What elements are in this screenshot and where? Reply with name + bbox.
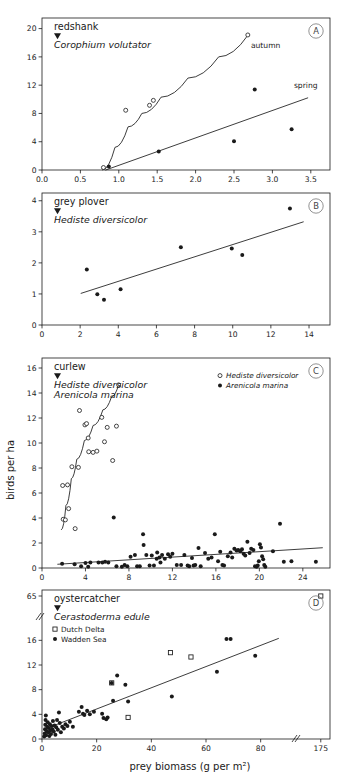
data-point-filled-circle: [203, 551, 207, 555]
legend-label-1: Wadden Sea: [61, 635, 107, 644]
ytick-label-c-5: 10: [27, 439, 37, 448]
panel-prey-name-c: Hediste diversicolor: [54, 379, 148, 390]
data-point-filled-circle: [210, 555, 214, 559]
data-point-filled-circle: [314, 560, 318, 564]
panel-bird-name-a: redshank: [54, 21, 99, 32]
xtick-label-a-3: 1.5: [151, 175, 163, 184]
data-point-filled-circle: [229, 637, 233, 641]
panel-tag-label-a: A: [313, 26, 319, 36]
ytick-label-c-1: 2: [32, 539, 37, 548]
data-point-open-circle: [63, 518, 67, 522]
xtick-label-c-6: 24: [298, 573, 308, 582]
data-point-filled-circle: [259, 545, 263, 549]
panel-bird-name-c: curlew: [54, 361, 86, 372]
xtick-label-d-2: 40: [146, 744, 156, 753]
data-point-filled-circle: [100, 712, 104, 716]
data-point-filled-circle: [199, 564, 203, 568]
data-point-open-square: [168, 651, 172, 655]
xtick-label-b-7: 14: [304, 330, 314, 339]
xtick-label-c-0: 0: [40, 573, 45, 582]
data-point-filled-circle: [170, 552, 174, 556]
panel-bird-name-d: oystercatcher: [54, 593, 120, 604]
legend-marker-filled-circle: [218, 384, 222, 388]
data-point-filled-circle: [60, 562, 64, 566]
data-point-filled-circle: [82, 713, 86, 717]
ytick-label-a-1: 4: [32, 137, 37, 146]
xtick-label-d-3: 60: [201, 744, 211, 753]
data-point-filled-circle: [215, 670, 219, 674]
legend-label-0: Hediste diversicolor: [226, 371, 299, 380]
xtick-label-d-5: 175: [314, 744, 329, 753]
data-point-filled-circle: [106, 715, 110, 719]
ytick-label-a-4: 16: [27, 53, 37, 62]
data-point-filled-circle: [141, 532, 145, 536]
data-point-filled-circle: [155, 550, 159, 554]
data-point-filled-circle: [86, 565, 90, 569]
panel-d: 020406080175048121665DoystercatcherCeras…: [27, 590, 330, 753]
data-point-filled-circle: [85, 267, 89, 271]
data-point-filled-circle: [53, 733, 57, 737]
data-point-filled-circle: [163, 557, 167, 561]
data-point-filled-circle: [158, 560, 162, 564]
data-point-filled-circle: [157, 150, 161, 154]
data-point-filled-circle: [111, 699, 115, 703]
spring-curve-label: spring: [294, 81, 318, 90]
ytick-label-b-3: 3: [32, 228, 37, 237]
xtick-label-c-4: 16: [211, 573, 221, 582]
data-point-filled-circle: [44, 714, 48, 718]
legend-label-1: Arenicola marina: [225, 381, 288, 390]
data-point-filled-circle: [179, 563, 183, 567]
data-point-filled-circle: [240, 253, 244, 257]
ytick-label-b-0: 0: [32, 321, 37, 330]
ytick-label-a-0: 0: [32, 166, 37, 175]
data-point-open-square: [126, 715, 130, 719]
data-point-filled-circle: [256, 564, 260, 568]
panel-a: 0.00.51.01.52.02.53.03.5048121620Aredsha…: [27, 18, 330, 184]
panel-prey-name-b: Hediste diversicolor: [54, 214, 148, 225]
panel-prey-name-a: Corophium volutator: [54, 39, 152, 50]
data-point-filled-circle: [57, 710, 61, 714]
data-point-filled-circle: [92, 710, 96, 714]
ytick-label-b-2: 2: [32, 259, 37, 268]
panel-b: 0246810121401234Bgrey ploverHediste dive…: [32, 193, 330, 339]
data-point-filled-circle: [218, 550, 222, 554]
data-point-filled-circle: [222, 564, 226, 568]
data-point-filled-circle: [179, 245, 183, 249]
data-point-filled-circle: [251, 548, 255, 552]
figure-root: 0.00.51.01.52.02.53.03.5048121620Aredsha…: [0, 0, 343, 781]
data-point-filled-circle: [123, 683, 127, 687]
data-point-open-circle: [151, 98, 155, 102]
data-point-filled-circle: [160, 553, 164, 557]
data-point-filled-circle: [230, 247, 234, 251]
autumn-curve-label: autumn: [251, 41, 281, 50]
data-point-filled-circle: [95, 292, 99, 296]
data-point-filled-circle: [83, 561, 87, 565]
panel-tag-label-d: D: [313, 598, 319, 608]
xtick-label-a-6: 3.0: [266, 175, 278, 184]
data-point-filled-circle: [144, 553, 148, 557]
data-point-filled-circle: [289, 559, 293, 563]
data-point-filled-circle: [263, 565, 267, 569]
data-point-filled-circle: [97, 560, 101, 564]
data-point-filled-circle: [112, 515, 116, 519]
xtick-label-a-2: 1.0: [113, 175, 125, 184]
panel-bird-name-b: grey plover: [54, 196, 109, 207]
data-point-filled-circle: [225, 637, 229, 641]
data-point-filled-circle: [261, 557, 265, 561]
data-point-filled-circle: [253, 654, 257, 658]
data-point-filled-circle: [125, 564, 129, 568]
data-point-open-circle: [102, 440, 106, 444]
data-point-filled-circle: [115, 673, 119, 677]
data-point-filled-circle: [257, 559, 261, 563]
data-point-filled-circle: [230, 555, 234, 559]
data-point-filled-circle: [51, 719, 55, 723]
data-point-filled-circle: [59, 730, 63, 734]
legend-marker-filled-circle: [53, 637, 57, 641]
data-point-filled-circle: [213, 532, 217, 536]
data-point-open-circle: [246, 33, 250, 37]
ytick-label-c-4: 8: [32, 464, 37, 473]
data-point-open-circle: [67, 507, 71, 511]
data-point-filled-circle: [102, 298, 106, 302]
data-point-filled-circle: [282, 560, 286, 564]
data-point-open-circle: [86, 436, 90, 440]
